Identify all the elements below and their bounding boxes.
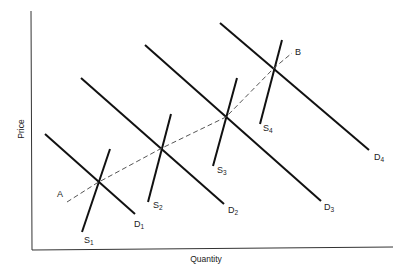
x-axis: [32, 247, 393, 250]
demand-curve-d1: [45, 134, 135, 214]
supply-curve-s4: [260, 40, 282, 124]
demand-curve-d3: [145, 45, 321, 201]
label-d3: D3: [324, 202, 335, 213]
label-d1: D1: [134, 219, 145, 230]
supply-curve-s2: [148, 114, 171, 202]
label-a: A: [57, 189, 63, 199]
label-s1: S1: [84, 235, 94, 246]
y-axis-label: Price: [16, 119, 26, 139]
supply-curve-s1: [82, 149, 110, 232]
label-s3: S3: [217, 165, 227, 176]
y-axis: [31, 11, 32, 250]
label-d2: D2: [228, 205, 239, 216]
label-s4: S4: [263, 123, 273, 134]
x-axis-label: Quantity: [190, 254, 222, 264]
supply-demand-diagram: A B D1 D2 D3 D4 S1 S2 S3 S4 Quantity Pri…: [0, 0, 408, 266]
label-b: B: [295, 47, 301, 57]
label-s2: S2: [153, 200, 163, 211]
label-d4: D4: [374, 152, 385, 163]
